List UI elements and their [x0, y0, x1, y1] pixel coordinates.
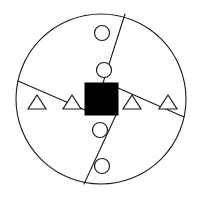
center-black-square	[85, 83, 118, 115]
circle-top-2	[97, 63, 112, 78]
shape-diagram-canvas	[0, 0, 199, 200]
circle-bottom-2	[95, 159, 110, 174]
circle-top-1	[95, 26, 110, 41]
triangle-right-outer	[159, 95, 177, 109]
circle-bottom-1	[93, 123, 108, 138]
triangle-left-outer	[28, 95, 46, 109]
figure-root	[0, 0, 199, 200]
